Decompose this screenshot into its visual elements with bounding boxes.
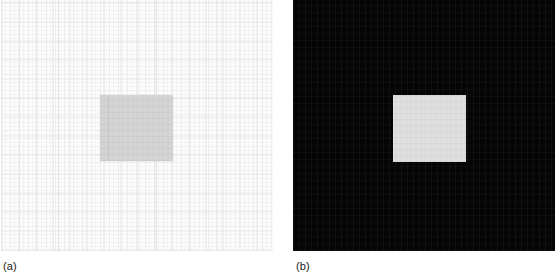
panel-a-image bbox=[1, 0, 273, 251]
panel-a-caption: (a) bbox=[3, 260, 17, 272]
panel-b-white-square bbox=[393, 95, 466, 162]
panel-b-image bbox=[293, 0, 555, 251]
panel-a-gray-square bbox=[100, 95, 173, 161]
panel-b-caption: (b) bbox=[296, 260, 310, 272]
figure-root: (a) (b) bbox=[0, 0, 555, 277]
